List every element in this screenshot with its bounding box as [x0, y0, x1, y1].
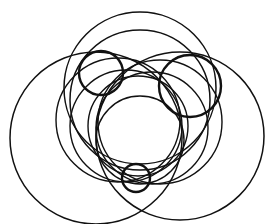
circle-mid-right-b — [96, 72, 208, 184]
circle-top-second — [70, 30, 210, 170]
overlapping-circles-figure — [0, 0, 272, 224]
circle-top-large — [64, 12, 216, 164]
circle-large-right — [96, 52, 264, 220]
circles-svg — [0, 0, 272, 224]
circle-mid-left-b — [70, 70, 182, 182]
circle-small-left — [79, 51, 123, 95]
circle-center-oval-a — [88, 76, 188, 176]
